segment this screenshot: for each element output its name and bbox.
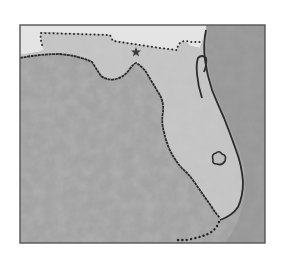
florida-map: Florida [0,0,285,256]
